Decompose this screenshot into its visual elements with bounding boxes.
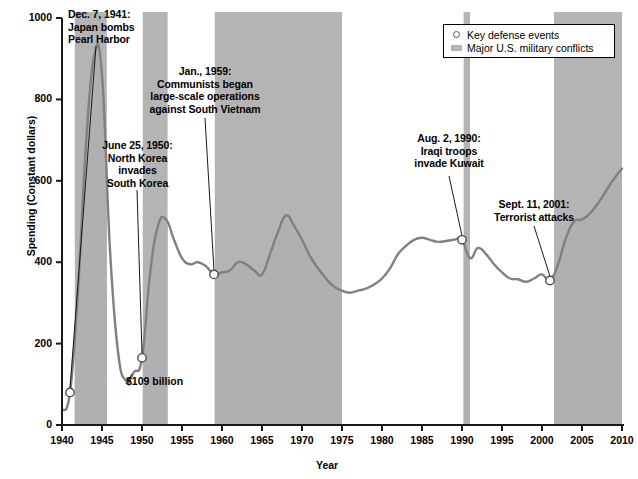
y-axis-tick-label: 800 (10, 92, 52, 104)
x-axis-tick-label: 1970 (286, 434, 318, 446)
x-axis-tick-label: 1960 (206, 434, 238, 446)
y-axis-tick-label: 1000 (10, 11, 52, 23)
annotation-kuwait-line1: Aug. 2, 1990: (396, 132, 502, 145)
annotation-pearl-harbor-line2: Japan bombs (68, 21, 135, 34)
open-circle-icon (449, 31, 463, 38)
x-axis-tick-label: 1980 (366, 434, 398, 446)
x-axis-tick-label: 1955 (166, 434, 198, 446)
annotation-vietnam: Jan., 1959: Communists began large-scale… (141, 65, 269, 115)
legend-item-conflicts: Major U.S. military conflicts (449, 41, 608, 54)
x-axis-tick-label: 2010 (606, 434, 638, 446)
key-defense-event-marker[interactable] (546, 276, 554, 284)
annotation-korea-line3: invades (85, 164, 190, 177)
x-axis-tick-label: 1940 (46, 434, 78, 446)
legend-item-events: Key defense events (449, 28, 608, 41)
annotation-leader-line (205, 118, 214, 270)
annotation-korea-line2: North Korea (85, 152, 190, 165)
x-axis-tick-label: 2000 (526, 434, 558, 446)
key-defense-event-marker[interactable] (210, 270, 218, 278)
annotation-vietnam-line4: against South Vietnam (141, 103, 269, 116)
annotation-vietnam-line3: large-scale operations (141, 90, 269, 103)
x-axis-tick-label: 1985 (406, 434, 438, 446)
y-axis-tick-label: 600 (10, 174, 52, 186)
x-axis-tick-label: 1990 (446, 434, 478, 446)
legend-label-events: Key defense events (467, 29, 559, 41)
annotation-leader-line (137, 190, 142, 354)
annotation-kuwait-line2: Iraqi troops (396, 145, 502, 158)
x-axis-tick-label: 1975 (326, 434, 358, 446)
x-axis-tick-label: 1995 (486, 434, 518, 446)
x-axis-tick-label: 1950 (126, 434, 158, 446)
annotation-pearl-harbor-line1: Dec. 7, 1941: (68, 8, 135, 21)
annotation-vietnam-line2: Communists began (141, 78, 269, 91)
key-defense-event-marker[interactable] (66, 388, 74, 396)
annotation-korea-line4: South Korea (85, 177, 190, 190)
legend-label-conflicts: Major U.S. military conflicts (467, 42, 594, 54)
x-axis-tick-label: 2005 (566, 434, 598, 446)
annotation-leader-line (449, 176, 462, 236)
annotation-korea-line1: June 25, 1950: (85, 139, 190, 152)
y-axis-tick-label: 0 (10, 418, 52, 430)
key-defense-event-marker[interactable] (138, 354, 146, 362)
gray-band-swatch-icon (449, 45, 463, 51)
annotation-sept-11-line2: Terrorist attacks (482, 211, 586, 224)
y-axis-tick-label: 200 (10, 337, 52, 349)
annotation-kuwait: Aug. 2, 1990: Iraqi troops invade Kuwait (396, 132, 502, 170)
y-axis-label: Spending (Constant dollars) (25, 106, 37, 266)
annotation-sept-11-line1: Sept. 11, 2001: (482, 198, 586, 211)
annotation-korea: June 25, 1950: North Korea invades South… (85, 139, 190, 189)
annotation-kuwait-line3: invade Kuwait (396, 157, 502, 170)
y-axis-tick-label: 400 (10, 255, 52, 267)
key-defense-event-marker[interactable] (458, 236, 466, 244)
chart-legend: Key defense events Major U.S. military c… (443, 24, 615, 58)
x-axis-label: Year (316, 459, 338, 471)
callout-109-billion: $109 billion (126, 375, 183, 387)
annotation-sept-11: Sept. 11, 2001: Terrorist attacks (482, 198, 586, 223)
annotation-vietnam-line1: Jan., 1959: (141, 65, 269, 78)
annotation-pearl-harbor-line3: Pearl Harbor (68, 33, 135, 46)
annotation-pearl-harbor: Dec. 7, 1941: Japan bombs Pearl Harbor (68, 8, 135, 46)
x-axis-tick-label: 1965 (246, 434, 278, 446)
x-axis-tick-label: 1945 (86, 434, 118, 446)
annotation-leader-line (534, 226, 550, 277)
